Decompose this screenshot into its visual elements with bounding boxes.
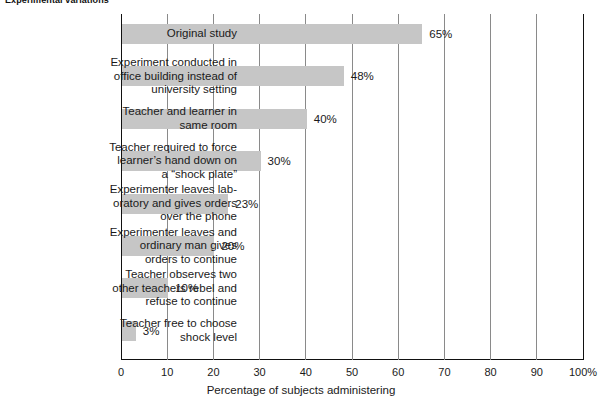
category-label-line: Teacher and learner in (37, 105, 237, 119)
category-label-line: learner’s hand down on (37, 154, 237, 168)
gridline-70 (444, 14, 445, 360)
category-label: Teacher observes twoother teachers rebel… (37, 268, 237, 309)
x-tick-label: 100% (569, 366, 597, 378)
x-tick-label: 70 (438, 366, 450, 378)
bar-value-label: 65% (429, 24, 452, 44)
category-label-line: Teacher observes two (37, 268, 237, 282)
chart-title: Experimental variations (5, 0, 109, 5)
category-label-line: Experimenter leaves lab- (37, 183, 237, 197)
category-label-line: office building instead of (37, 70, 237, 84)
category-label-line: university setting (37, 83, 237, 97)
category-label: Experimenter leaves andordinary man give… (37, 226, 237, 267)
gridline-80 (490, 14, 491, 360)
category-label-line: a “shock plate” (37, 168, 237, 182)
category-label-line: Original study (37, 27, 237, 41)
category-label: Teacher required to forcelearner’s hand … (37, 141, 237, 182)
category-label-line: Experiment conducted in (37, 56, 237, 70)
category-label-line: ordinary man gives (37, 239, 237, 253)
category-label-line: oratory and gives orders (37, 197, 237, 211)
category-label: Teacher and learner insame room (37, 105, 237, 132)
x-tick-label: 50 (346, 366, 358, 378)
x-tick-label: 10 (161, 366, 173, 378)
category-label: Experimenter leaves lab-oratory and give… (37, 183, 237, 224)
category-label-line: Experimenter leaves and (37, 226, 237, 240)
category-label-line: other teachers rebel and (37, 282, 237, 296)
category-label-line: orders to continue (37, 253, 237, 267)
category-label-line: same room (37, 119, 237, 133)
chart-page: Experimental variations 65%48%40%30%23%2… (0, 0, 602, 401)
x-tick-label: 20 (207, 366, 219, 378)
x-tick-label: 80 (484, 366, 496, 378)
x-tick-label: 60 (392, 366, 404, 378)
bar-value-label: 40% (314, 109, 337, 129)
category-labels: Original studyExperiment conducted inoff… (37, 14, 237, 360)
x-tick-label: 0 (118, 366, 124, 378)
category-label-line: over the phone (37, 210, 237, 224)
category-label: Teacher free to chooseshock level (37, 317, 237, 344)
gridline-60 (398, 14, 399, 360)
category-label-line: Teacher required to force (37, 141, 237, 155)
category-label-line: shock level (37, 331, 237, 345)
x-tick-label: 90 (531, 366, 543, 378)
gridline-90 (536, 14, 537, 360)
x-tick-label: 30 (253, 366, 265, 378)
x-tick-label: 40 (300, 366, 312, 378)
bar-value-label: 48% (351, 66, 374, 86)
gridline-100 (583, 14, 584, 360)
category-label-line: refuse to continue (37, 295, 237, 309)
plot-area: 65%48%40%30%23%20%10%3% Original studyEx… (121, 14, 583, 360)
bar-value-label: 30% (268, 151, 291, 171)
category-label: Original study (37, 27, 237, 41)
bar-value-label: 23% (235, 194, 258, 214)
category-label-line: Teacher free to choose (37, 317, 237, 331)
category-label: Experiment conducted inoffice building i… (37, 56, 237, 97)
x-axis-title: Percentage of subjects administering (0, 384, 602, 396)
